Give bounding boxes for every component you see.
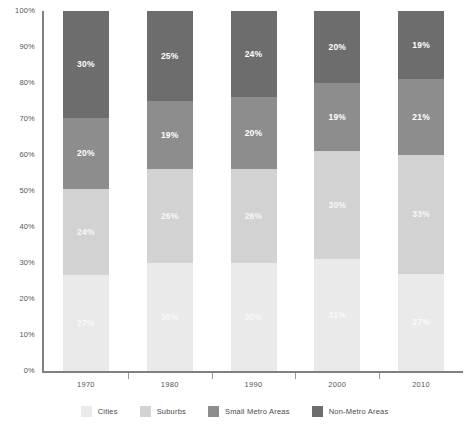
- bar-stack: 30%20%24%27%: [63, 11, 109, 371]
- bar-segment-label: 25%: [161, 52, 179, 61]
- bar-segment-label: 33%: [412, 210, 430, 219]
- y-axis-tick-label: 90%: [19, 43, 35, 51]
- bar-segment-label: 19%: [328, 113, 346, 122]
- bar-stack: 20%19%30%31%: [314, 11, 360, 371]
- bar-segment-label: 19%: [161, 131, 179, 140]
- chart-legend: CitiesSuburbsSmall Metro AreasNon-Metro …: [0, 400, 469, 422]
- bar-segment[interactable]: 20%: [231, 97, 277, 169]
- bar-group[interactable]: 30%20%24%27%: [63, 11, 109, 371]
- y-axis-tick-label: 20%: [19, 295, 35, 303]
- bar-group[interactable]: 25%19%26%30%: [147, 11, 193, 371]
- legend-swatch-icon: [312, 406, 323, 417]
- y-axis-tick-label: 50%: [19, 187, 35, 195]
- bar-segment-label: 27%: [77, 319, 95, 328]
- y-axis-tick-labels: 100%90%80%70%60%50%40%30%20%10%0%: [0, 11, 38, 371]
- bar-segment[interactable]: 25%: [147, 11, 193, 101]
- bar-group[interactable]: 24%20%26%30%: [231, 11, 277, 371]
- bar-segment[interactable]: 30%: [147, 263, 193, 371]
- bar-segment-label: 24%: [77, 228, 95, 237]
- y-axis-tick-label: 100%: [15, 7, 35, 15]
- x-axis-tick-mark: [212, 373, 213, 379]
- bar-group[interactable]: 20%19%30%31%: [314, 11, 360, 371]
- bar-segment[interactable]: 24%: [63, 189, 109, 275]
- x-axis-tick-mark: [128, 373, 129, 379]
- bar-stack: 25%19%26%30%: [147, 11, 193, 371]
- bar-segment[interactable]: 27%: [63, 275, 109, 371]
- x-axis-tick-label: 1980: [147, 380, 193, 389]
- bar-segment-label: 31%: [328, 311, 346, 320]
- plot-area: 100%90%80%70%60%50%40%30%20%10%0% 30%20%…: [0, 0, 469, 395]
- bar-segment[interactable]: 20%: [63, 118, 109, 189]
- legend-item[interactable]: Cities: [81, 406, 118, 417]
- bar-segment-label: 20%: [328, 43, 346, 52]
- legend-item-label: Small Metro Areas: [225, 407, 290, 416]
- bar-segment-label: 30%: [161, 313, 179, 322]
- x-axis-tick-mark: [295, 373, 296, 379]
- x-axis-tick-label: 2000: [314, 380, 360, 389]
- legend-item[interactable]: Suburbs: [140, 406, 186, 417]
- bar-segment[interactable]: 31%: [314, 259, 360, 371]
- bars-container: 30%20%24%27%25%19%26%30%24%20%26%30%20%1…: [44, 11, 463, 371]
- x-axis-tick-mark: [379, 373, 380, 379]
- legend-item-label: Cities: [98, 407, 118, 416]
- bar-segment-label: 24%: [245, 50, 263, 59]
- y-axis-tick-label: 30%: [19, 259, 35, 267]
- y-axis-tick-label: 60%: [19, 151, 35, 159]
- x-axis-line: [42, 371, 463, 373]
- bar-segment[interactable]: 26%: [147, 169, 193, 263]
- legend-item[interactable]: Small Metro Areas: [208, 406, 290, 417]
- bar-segment-label: 26%: [245, 212, 263, 221]
- bar-segment[interactable]: 19%: [314, 83, 360, 151]
- bar-segment-label: 30%: [328, 201, 346, 210]
- bar-segment[interactable]: 24%: [231, 11, 277, 97]
- bar-segment[interactable]: 20%: [314, 11, 360, 83]
- bar-segment-label: 27%: [412, 318, 430, 327]
- bar-segment[interactable]: 30%: [231, 263, 277, 371]
- y-axis-tick-label: 70%: [19, 115, 35, 123]
- bar-segment[interactable]: 19%: [398, 11, 444, 79]
- bar-segment[interactable]: 26%: [231, 169, 277, 263]
- bar-segment-label: 30%: [77, 60, 95, 69]
- legend-swatch-icon: [81, 406, 92, 417]
- legend-swatch-icon: [208, 406, 219, 417]
- x-axis-tick-label: 2010: [398, 380, 444, 389]
- bar-segment[interactable]: 21%: [398, 79, 444, 155]
- stacked-bar-chart: 100%90%80%70%60%50%40%30%20%10%0% 30%20%…: [0, 0, 469, 437]
- y-axis-tick-label: 0%: [24, 367, 35, 375]
- legend-item-label: Non-Metro Areas: [329, 407, 389, 416]
- bar-stack: 24%20%26%30%: [231, 11, 277, 371]
- y-axis-tick-label: 10%: [19, 331, 35, 339]
- bar-segment-label: 20%: [245, 129, 263, 138]
- bar-stack: 19%21%33%27%: [398, 11, 444, 371]
- bar-segment[interactable]: 27%: [398, 274, 444, 371]
- legend-item[interactable]: Non-Metro Areas: [312, 406, 389, 417]
- bar-segment-label: 20%: [77, 149, 95, 158]
- x-axis-tick-label: 1970: [63, 380, 109, 389]
- bar-segment[interactable]: 30%: [314, 151, 360, 259]
- x-axis-tick-labels: 19701980199020002010: [44, 380, 463, 394]
- bar-group[interactable]: 19%21%33%27%: [398, 11, 444, 371]
- bar-segment-label: 30%: [245, 313, 263, 322]
- legend-item-label: Suburbs: [157, 407, 186, 416]
- y-axis-tick-label: 40%: [19, 223, 35, 231]
- bar-segment[interactable]: 19%: [147, 101, 193, 169]
- bar-segment-label: 26%: [161, 212, 179, 221]
- bar-segment-label: 21%: [412, 113, 430, 122]
- legend-swatch-icon: [140, 406, 151, 417]
- x-axis-tick-label: 1990: [231, 380, 277, 389]
- bar-segment-label: 19%: [412, 41, 430, 50]
- bar-segment[interactable]: 33%: [398, 155, 444, 274]
- y-axis-tick-label: 80%: [19, 79, 35, 87]
- bar-segment[interactable]: 30%: [63, 11, 109, 118]
